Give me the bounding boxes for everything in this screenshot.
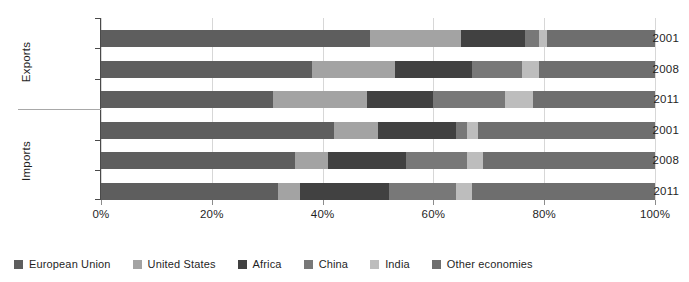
x-tick-mark [544, 200, 545, 205]
bar-segment [367, 91, 433, 108]
x-tick-label: 20% [200, 208, 224, 220]
y-tick-4 [95, 170, 101, 171]
x-tick-label: 40% [311, 208, 335, 220]
category-label: 2008 [599, 63, 679, 75]
x-tick-mark [101, 200, 102, 205]
group-label-imports-text: Imports [20, 141, 32, 181]
bar-segment [370, 30, 461, 47]
x-tick-label: 0% [92, 208, 109, 220]
legend-item[interactable]: China [304, 258, 349, 270]
bar-segment [433, 91, 505, 108]
category-label: 2011 [599, 185, 679, 197]
bar-segment [378, 122, 456, 139]
legend-label: Africa [253, 258, 282, 270]
bar-row [101, 61, 655, 78]
x-tick-label: 80% [532, 208, 556, 220]
legend-item[interactable]: Africa [238, 258, 282, 270]
category-label: 2011 [599, 93, 679, 105]
bar-segment [101, 61, 312, 78]
x-tick-mark [212, 200, 213, 205]
x-tick-mark [433, 200, 434, 205]
legend-label: European Union [29, 258, 111, 270]
x-tick-label: 100% [640, 208, 670, 220]
category-label: 2008 [599, 154, 679, 166]
plot-area [101, 18, 655, 200]
bar-segment [334, 122, 378, 139]
bar-segment [273, 91, 367, 108]
stacked-bar-chart: 200120082011200120082011 Exports Imports… [0, 0, 689, 282]
bar-segment [467, 152, 484, 169]
legend-item[interactable]: Other economies [432, 258, 533, 270]
bar-segment [456, 183, 473, 200]
legend-swatch-icon [370, 260, 379, 269]
bar-row [101, 183, 655, 200]
bar-segment [522, 61, 539, 78]
bar-segment [389, 183, 455, 200]
x-tick-mark [323, 200, 324, 205]
x-tick-label: 60% [422, 208, 446, 220]
bar-segment [395, 61, 473, 78]
bar-segment [472, 61, 522, 78]
bar-segment [505, 91, 533, 108]
bar-row [101, 91, 655, 108]
bar-row [101, 152, 655, 169]
bar-row [101, 122, 655, 139]
bar-row [101, 30, 655, 47]
group-label-exports: Exports [0, 56, 56, 68]
bar-segment [101, 152, 295, 169]
legend-swatch-icon [432, 260, 441, 269]
gridline-100% [655, 18, 656, 200]
legend-label: China [319, 258, 349, 270]
bar-segment [101, 91, 273, 108]
bar-segment [406, 152, 467, 169]
bar-segment [456, 122, 467, 139]
legend-item[interactable]: United States [133, 258, 216, 270]
bar-segment [101, 30, 370, 47]
group-label-exports-text: Exports [20, 42, 32, 82]
group-label-imports: Imports [0, 155, 56, 167]
legend-label: Other economies [447, 258, 533, 270]
bar-segment [278, 183, 300, 200]
legend-item[interactable]: European Union [14, 258, 111, 270]
y-tick-1 [95, 48, 101, 49]
category-label: 2001 [599, 32, 679, 44]
group-divider [18, 109, 102, 110]
bar-segment [328, 152, 406, 169]
bar-segment [461, 30, 525, 47]
legend-label: United States [148, 258, 216, 270]
bar-segment [295, 152, 328, 169]
bar-segment [101, 122, 334, 139]
category-label: 2001 [599, 124, 679, 136]
bar-segment [525, 30, 539, 47]
bar-segment [300, 183, 389, 200]
x-tick-mark [655, 200, 656, 205]
legend-swatch-icon [14, 260, 23, 269]
legend-label: India [385, 258, 410, 270]
legend-swatch-icon [133, 260, 142, 269]
legend-swatch-icon [238, 260, 247, 269]
bar-segment [467, 122, 478, 139]
chart-legend: European UnionUnited StatesAfricaChinaIn… [14, 256, 555, 272]
y-tick-3 [95, 140, 101, 141]
y-tick-2 [95, 79, 101, 80]
bar-segment [312, 61, 395, 78]
bar-segment [539, 30, 547, 47]
bar-segment [101, 183, 278, 200]
legend-swatch-icon [304, 260, 313, 269]
legend-item[interactable]: India [370, 258, 410, 270]
